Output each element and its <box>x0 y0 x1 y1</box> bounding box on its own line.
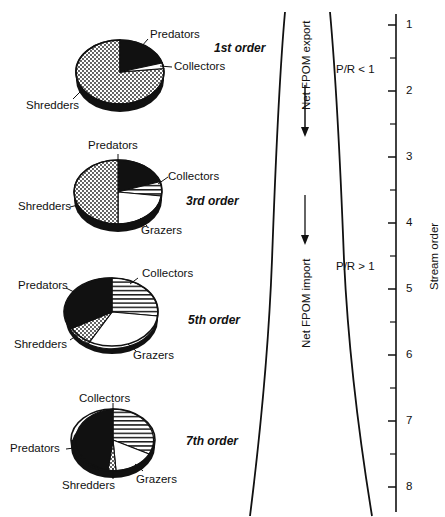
pie-3-label-grazers: Grazers <box>133 349 174 361</box>
pie-1-label-shredders: Shredders <box>26 99 79 111</box>
pie-chart-3rd-order <box>70 154 168 232</box>
pie-2-label-grazers: Grazers <box>141 224 182 236</box>
axis-tick-label-8: 8 <box>406 480 412 492</box>
pie-chart-1st-order <box>73 39 172 112</box>
stream-order-axis <box>388 14 396 512</box>
pie-4-label-grazers: Grazers <box>136 473 177 485</box>
pie-chart-5th-order <box>64 278 158 354</box>
axis-tick-label-3: 3 <box>406 150 412 162</box>
axis-title-stream-order: Stream order <box>428 223 440 290</box>
pr-ratio-upper: P/R < 1 <box>336 63 375 75</box>
pie-1-leader-shredders <box>73 92 80 99</box>
pr-ratio-lower: P/R > 1 <box>336 260 375 272</box>
flow-label-export: Net FPOM export <box>300 21 312 110</box>
pie-2-label-collectors: Collectors <box>168 170 219 182</box>
arrow-export-head <box>301 127 309 137</box>
stream-left-bank <box>250 12 285 516</box>
pie-4-label-collectors: Collectors <box>79 392 130 404</box>
order-label-3rd: 3rd order <box>186 194 239 208</box>
pie-3-slice-collectors <box>112 278 158 316</box>
axis-tick-label-2: 2 <box>406 84 412 96</box>
pie-1-label-collectors: Collectors <box>174 60 225 72</box>
pie-3-label-shredders: Shredders <box>14 338 67 350</box>
order-label-7th: 7th order <box>186 434 238 448</box>
pie-3-label-collectors: Collectors <box>142 267 193 279</box>
axis-tick-label-4: 4 <box>406 216 412 228</box>
pie-4-label-predators: Predators <box>10 442 60 454</box>
pie-1-label-predators: Predators <box>150 28 200 40</box>
pie-3-label-predators: Predators <box>18 279 68 291</box>
figure-canvas: Predators Collectors Shredders 1st order… <box>0 0 445 517</box>
axis-tick-label-5: 5 <box>406 282 412 294</box>
order-label-5th: 5th order <box>188 313 240 327</box>
pie-4-label-shredders: Shredders <box>62 479 115 491</box>
axis-tick-label-6: 6 <box>406 348 412 360</box>
flow-label-import: Net FPOM import <box>300 259 312 348</box>
pie-2-label-predators: Predators <box>88 139 138 151</box>
axis-tick-label-7: 7 <box>406 414 412 426</box>
pie-chart-7th-order <box>66 403 155 479</box>
arrow-import-head <box>301 235 309 245</box>
axis-tick-label-1: 1 <box>406 18 412 30</box>
order-label-1st: 1st order <box>214 41 265 55</box>
pie-2-label-shredders: Shredders <box>18 200 71 212</box>
